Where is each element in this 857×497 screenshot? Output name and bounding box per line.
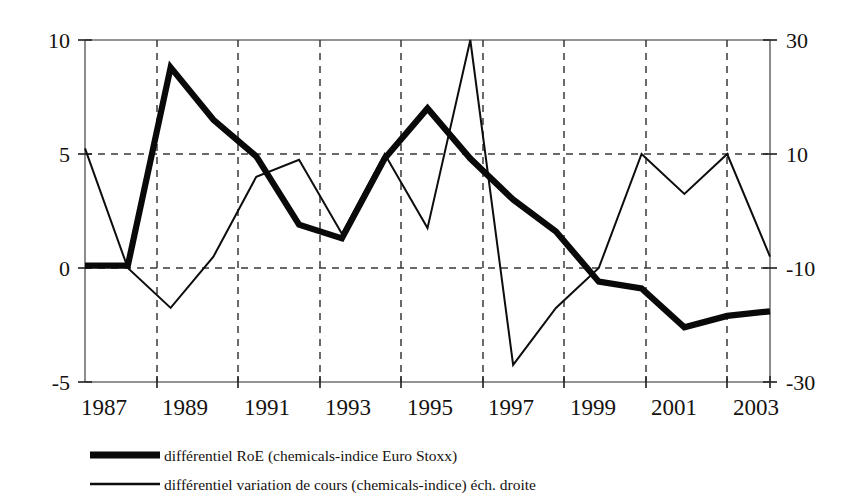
x-axis-label-1989: 1989 [162, 395, 208, 420]
legend-label-variation-de-cours: différentiel variation de cours (chemica… [164, 476, 536, 494]
legend-label-differentiel-roe: différentiel RoE (chemicals-indice Euro … [164, 447, 457, 465]
vertical-gridlines [157, 40, 727, 382]
chart-legend: différentiel RoE (chemicals-indice Euro … [90, 447, 536, 494]
x-axis-label-1993: 1993 [325, 395, 371, 420]
x-axis-labels: 1987 1989 1991 1993 1995 1997 1999 2001 … [81, 395, 779, 420]
x-axis-label-1999: 1999 [570, 395, 616, 420]
x-axis-label-2003: 2003 [733, 395, 779, 420]
left-axis-label-minus5: -5 [52, 370, 70, 395]
left-axis-label-10: 10 [48, 28, 70, 53]
right-axis-label-minus10: -10 [786, 256, 815, 281]
left-axis-label-5: 5 [59, 142, 70, 167]
right-axis-label-10: 10 [786, 142, 808, 167]
x-axis-label-2001: 2001 [651, 395, 697, 420]
data-series-group [85, 40, 770, 365]
right-axis-label-minus30: -30 [786, 370, 815, 395]
x-axis-label-1987: 1987 [81, 395, 127, 420]
left-axis-labels: 10 5 0 -5 [48, 28, 70, 395]
x-axis-label-1997: 1997 [488, 395, 534, 420]
right-axis-labels: 30 10 -10 -30 [786, 28, 815, 395]
horizontal-gridlines [85, 154, 770, 268]
right-axis-label-30: 30 [786, 28, 808, 53]
left-axis-label-0: 0 [59, 256, 70, 281]
line-chart: 10 5 0 -5 30 10 -10 -30 1987 1989 1991 1… [0, 0, 857, 497]
x-axis-label-1991: 1991 [244, 395, 290, 420]
chart-figure: 10 5 0 -5 30 10 -10 -30 1987 1989 1991 1… [0, 0, 857, 497]
x-axis-label-1995: 1995 [407, 395, 453, 420]
